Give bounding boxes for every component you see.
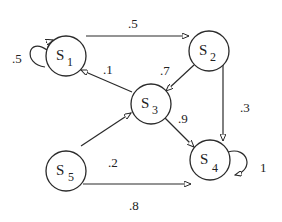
label-s2-s4: .3 [240, 100, 250, 115]
node-s2: S 2 [189, 31, 229, 71]
svg-text:S: S [56, 47, 64, 63]
svg-text:3: 3 [152, 103, 158, 117]
svg-text:1: 1 [67, 55, 73, 69]
label-s3-s4: .9 [178, 111, 188, 126]
svg-text:4: 4 [212, 161, 218, 175]
node-s5: S 5 [46, 151, 86, 191]
svg-text:S: S [199, 42, 207, 58]
label-s3-s1: .1 [103, 62, 113, 77]
svg-text:S: S [141, 95, 149, 111]
label-s5-s3: .2 [108, 155, 118, 170]
label-s5-s4: .8 [129, 198, 139, 213]
edge-s4-s4 [228, 151, 247, 175]
svg-text:S: S [200, 151, 208, 167]
svg-text:2: 2 [210, 50, 216, 64]
svg-text:5: 5 [68, 170, 74, 184]
node-s3: S 3 [131, 84, 171, 124]
label-s1-s1: .5 [12, 51, 22, 66]
edge-s2-s3 [166, 65, 194, 91]
node-s4: S 4 [190, 140, 230, 180]
label-s4-s4: 1 [260, 160, 267, 175]
label-s2-s3: .7 [160, 63, 170, 78]
node-s1: S 1 [46, 36, 86, 76]
edge-s5-s3 [81, 113, 131, 146]
label-s1-s2: .5 [128, 16, 138, 31]
state-diagram: S 1 S 2 S 3 S 4 S 5 .5 .5 .7 .3 .1 .9 .2… [0, 0, 282, 222]
svg-text:S: S [56, 162, 64, 178]
